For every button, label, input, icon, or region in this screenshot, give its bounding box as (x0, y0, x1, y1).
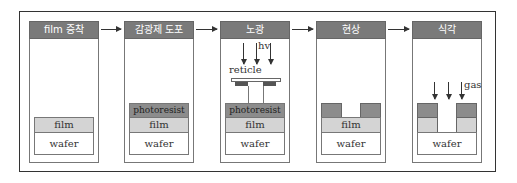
step-title: 감광제 도포 (124, 21, 194, 39)
photoresist-pattern-left (417, 103, 438, 118)
wafer-layer: wafer (34, 132, 94, 155)
light-arrow-icon (256, 43, 257, 64)
mask-pattern (235, 82, 248, 86)
shadow-line (263, 86, 264, 103)
flow-arrow-2 (196, 29, 217, 30)
gas-arrow-icon (434, 82, 435, 99)
step-photoresist-coating: 감광제 도포 photoresist film wafer (124, 21, 194, 163)
photoresist-layer: photoresist (129, 103, 189, 118)
wafer-layer: wafer (129, 132, 189, 155)
flow-arrow-4 (388, 29, 409, 30)
step-title: 식각 (412, 21, 482, 39)
gas-arrow-icon (448, 82, 449, 99)
photoresist-layer: photoresist (225, 103, 285, 118)
film-pattern-right (456, 117, 477, 133)
step-development: 현상 film wafer (316, 21, 386, 163)
light-label: hv (258, 40, 270, 51)
film-pattern-left (417, 117, 438, 133)
film-layer: film (225, 117, 285, 133)
photoresist-pattern-right (456, 103, 477, 118)
shadow-line (248, 86, 249, 103)
light-arrow-icon (270, 43, 271, 64)
wafer-layer: wafer (417, 132, 477, 155)
step-exposure: hv reticle 노광 photoresist film wafer (220, 21, 290, 163)
step-film-deposition: film 증착 film wafer (29, 21, 99, 163)
film-layer: film (34, 117, 94, 133)
wafer-layer: wafer (321, 132, 381, 155)
photoresist-pattern-left (321, 103, 342, 118)
light-arrow-icon (243, 43, 244, 64)
flow-arrow-3 (292, 29, 313, 30)
mask-pattern (263, 82, 276, 86)
gas-label: gas (464, 79, 482, 90)
step-title: film 증착 (29, 21, 99, 39)
photoresist-pattern-right (360, 103, 381, 118)
wafer-layer: wafer (225, 132, 285, 155)
gas-arrow-icon (461, 82, 462, 99)
step-etching: 식각 gas wafer (412, 21, 482, 163)
flow-arrow-1 (101, 29, 121, 30)
step-title: 현상 (316, 21, 386, 39)
film-layer: film (321, 117, 381, 133)
step-title: 노광 (220, 21, 290, 39)
film-layer: film (129, 117, 189, 133)
reticle-label: reticle (229, 64, 262, 75)
